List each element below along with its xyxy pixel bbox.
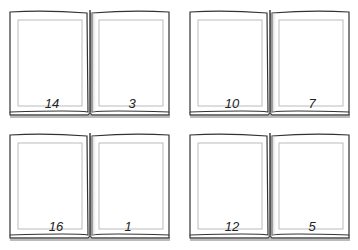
right-page-number: 1 <box>98 219 158 234</box>
book-spread: 10 7 <box>186 8 354 120</box>
left-page-number: 12 <box>202 219 262 234</box>
book-spread: 14 3 <box>6 8 174 120</box>
left-page-number: 14 <box>22 96 82 111</box>
spine-shadow <box>270 13 277 112</box>
book-spread: 12 5 <box>186 131 354 243</box>
book-spread: 16 1 <box>6 131 174 243</box>
right-page-number: 5 <box>282 219 342 234</box>
spine-shadow <box>270 136 277 235</box>
left-page-number: 16 <box>26 219 86 234</box>
right-page-number: 3 <box>102 96 162 111</box>
right-page-number: 7 <box>282 96 342 111</box>
spine-shadow <box>90 13 97 112</box>
spine-shadow <box>90 136 97 235</box>
left-page-number: 10 <box>202 96 262 111</box>
